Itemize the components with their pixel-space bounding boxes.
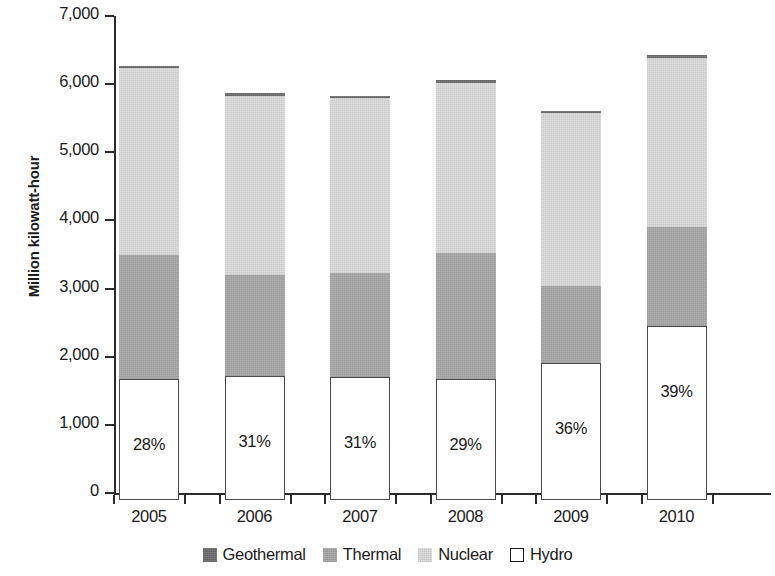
legend-label: Hydro bbox=[530, 545, 573, 564]
y-axis-tick-label: 4,000 bbox=[29, 208, 99, 227]
x-axis-label-2005: 2005 bbox=[104, 507, 194, 526]
legend-label: Nuclear bbox=[438, 545, 493, 564]
x-axis-tick bbox=[290, 495, 292, 504]
bar-segment-thermal bbox=[647, 227, 707, 326]
bar-2007[interactable]: 31% bbox=[330, 17, 390, 500]
bar-segment-nuclear bbox=[225, 95, 285, 275]
chart-legend: GeothermalThermalNuclearHydro bbox=[0, 545, 775, 564]
x-axis-tick bbox=[641, 495, 643, 504]
legend-label: Geothermal bbox=[223, 545, 306, 564]
bar-data-label: 31% bbox=[330, 433, 390, 452]
y-axis-tick: 6,000 bbox=[105, 83, 114, 85]
x-axis-tick bbox=[430, 495, 432, 504]
legend-swatch-nuclear-icon bbox=[418, 548, 432, 562]
y-axis-tick-label: 3,000 bbox=[29, 277, 99, 296]
y-axis-tick: 7,000 bbox=[105, 15, 114, 17]
x-axis-label-2009: 2009 bbox=[526, 507, 616, 526]
bar-segment-geothermal bbox=[330, 96, 390, 99]
bar-data-label: 28% bbox=[119, 435, 179, 454]
y-axis-line bbox=[114, 16, 116, 495]
y-axis-tick: 0 bbox=[105, 492, 114, 494]
bar-data-label: 29% bbox=[436, 435, 496, 454]
bar-segment-thermal bbox=[541, 286, 601, 363]
bar-segment-thermal bbox=[119, 255, 179, 379]
y-axis-tick: 1,000 bbox=[105, 424, 114, 426]
bar-2008[interactable]: 29% bbox=[436, 17, 496, 500]
x-axis-tick bbox=[219, 495, 221, 504]
x-axis-tick bbox=[184, 495, 186, 504]
legend-swatch-thermal-icon bbox=[323, 548, 337, 562]
x-axis-tick bbox=[606, 495, 608, 504]
legend-item-hydro[interactable]: Hydro bbox=[510, 545, 573, 564]
bar-2010[interactable]: 39% bbox=[647, 17, 707, 500]
bar-data-label: 39% bbox=[647, 382, 707, 401]
x-axis-label-2006: 2006 bbox=[210, 507, 300, 526]
legend-item-thermal[interactable]: Thermal bbox=[323, 545, 401, 564]
y-axis-tick-label: 6,000 bbox=[29, 72, 99, 91]
y-axis-tick-label: 0 bbox=[29, 481, 99, 500]
bar-segment-hydro bbox=[647, 326, 707, 500]
y-axis-tick: 3,000 bbox=[105, 288, 114, 290]
legend-label: Thermal bbox=[343, 545, 401, 564]
x-axis-tick bbox=[535, 495, 537, 504]
bar-segment-geothermal bbox=[647, 55, 707, 58]
bar-segment-nuclear bbox=[119, 68, 179, 255]
bar-segment-geothermal bbox=[119, 66, 179, 69]
bar-segment-thermal bbox=[225, 275, 285, 376]
x-axis-label-2010: 2010 bbox=[632, 507, 722, 526]
bar-2005[interactable]: 28% bbox=[119, 17, 179, 500]
x-axis-tick bbox=[712, 495, 714, 504]
x-axis-tick bbox=[113, 495, 115, 504]
y-axis-tick-label: 7,000 bbox=[29, 4, 99, 23]
y-axis-tick-label: 5,000 bbox=[29, 140, 99, 159]
bar-segment-thermal bbox=[436, 253, 496, 379]
bar-segment-nuclear bbox=[330, 98, 390, 273]
legend-item-nuclear[interactable]: Nuclear bbox=[418, 545, 493, 564]
y-axis-tick-label: 1,000 bbox=[29, 413, 99, 432]
bar-segment-nuclear bbox=[647, 57, 707, 227]
bar-2006[interactable]: 31% bbox=[225, 17, 285, 500]
x-axis-label-2007: 2007 bbox=[315, 507, 405, 526]
x-axis-tick bbox=[501, 495, 503, 504]
bar-segment-nuclear bbox=[436, 82, 496, 252]
legend-swatch-hydro-icon bbox=[510, 548, 524, 562]
x-axis-tick bbox=[395, 495, 397, 504]
y-axis-tick: 5,000 bbox=[105, 151, 114, 153]
bar-data-label: 31% bbox=[225, 432, 285, 451]
y-axis-tick: 2,000 bbox=[105, 356, 114, 358]
x-axis-label-2008: 2008 bbox=[421, 507, 511, 526]
bar-segment-geothermal bbox=[225, 93, 285, 96]
bar-2009[interactable]: 36% bbox=[541, 17, 601, 500]
legend-swatch-geothermal-icon bbox=[203, 548, 217, 562]
bar-segment-geothermal bbox=[436, 80, 496, 83]
legend-item-geothermal[interactable]: Geothermal bbox=[203, 545, 306, 564]
y-axis-tick: 4,000 bbox=[105, 219, 114, 221]
bar-segment-nuclear bbox=[541, 113, 601, 286]
plot-area: 01,0002,0003,0004,0005,0006,0007,000 200… bbox=[114, 10, 771, 500]
y-axis-tick-label: 2,000 bbox=[29, 345, 99, 364]
stacked-bar-chart: Million kilowatt-hour 01,0002,0003,0004,… bbox=[0, 0, 775, 576]
bar-segment-geothermal bbox=[541, 111, 601, 114]
bar-segment-thermal bbox=[330, 273, 390, 377]
x-axis-tick bbox=[324, 495, 326, 504]
bar-data-label: 36% bbox=[541, 419, 601, 438]
